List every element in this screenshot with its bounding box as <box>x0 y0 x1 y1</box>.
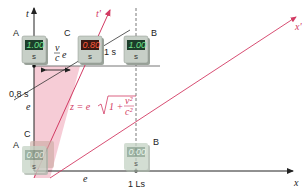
clock-top-b-unit: s <box>134 52 138 61</box>
t-axis-label: t <box>26 8 29 19</box>
clock-top-b-value: 1.00 <box>129 40 147 50</box>
label-e-vertical: e <box>26 101 31 112</box>
label-0-8s: 0,8 s <box>9 89 29 99</box>
label-ve-over-c: v c e <box>54 42 67 63</box>
label-b-bottom: B <box>153 137 159 147</box>
label-b-top: B <box>151 28 157 38</box>
clock-top-a-unit: s <box>32 52 36 61</box>
clock-top-b: 1.00 s <box>124 36 150 65</box>
x-axis-label: x <box>293 177 299 188</box>
clock-bottom-b: 0.00 s <box>124 143 150 172</box>
clock-top-c-unit: s <box>88 52 92 61</box>
formula-z: z = e 1 + v² c² <box>69 95 136 117</box>
clock-top-a: 1.00 s <box>22 36 48 65</box>
x-prime-axis-label: x' <box>294 21 302 32</box>
label-1ls: 1 Ls <box>128 179 146 189</box>
label-e-horizontal: e <box>83 173 88 184</box>
label-1s: 1 s <box>104 47 117 57</box>
clock-bottom-b-unit: s <box>134 159 138 168</box>
label-c-top: C <box>64 28 71 38</box>
spacetime-diagram: 1.00 s 0.80 s 1.00 s 0.00 s 0.00 s t t' <box>0 0 306 192</box>
clock-bottom-a: 0.00 s <box>22 146 48 175</box>
label-a-top: A <box>13 28 19 38</box>
clock-bottom-a-unit: s <box>32 162 36 171</box>
label-c-bottom: C <box>24 129 31 139</box>
svg-text:e: e <box>62 49 67 60</box>
clock-top-a-value: 1.00 <box>27 40 45 50</box>
svg-text:c²: c² <box>125 106 133 117</box>
clock-top-c-value: 0.80 <box>83 40 101 50</box>
svg-text:v²: v² <box>125 95 133 106</box>
label-a-bottom: A <box>13 140 19 150</box>
clock-bottom-a-value: 0.00 <box>27 150 45 160</box>
clock-top-c: 0.80 s <box>78 36 104 65</box>
svg-text:z = e: z = e <box>69 101 91 112</box>
svg-text:1 +: 1 + <box>109 101 123 112</box>
t-prime-axis-label: t' <box>96 8 102 19</box>
svg-text:c: c <box>55 52 60 63</box>
clock-bottom-b-value: 0.00 <box>129 147 147 157</box>
